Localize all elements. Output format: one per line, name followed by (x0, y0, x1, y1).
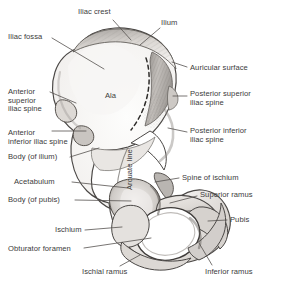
label-iliac-crest: Iliac crest (78, 8, 111, 17)
label-ischial-ramus: Ischial ramus (82, 268, 127, 277)
label-anterior-inferior-iliac-spine: Anterior inferior iliac spine (8, 129, 68, 146)
posterior-superior-iliac-spine-shape (168, 86, 179, 110)
label-superior-ramus: Superior ramus (200, 191, 253, 200)
label-ala: Ala (105, 92, 116, 101)
label-anterior-superior-iliac-spine: Anterior superior iliac spine (8, 88, 42, 114)
label-body-of-ilium: Body (of ilium) (8, 153, 57, 162)
label-body-of-pubis: Body (of pubis) (8, 196, 60, 205)
anatomy-figure-page: Iliac crest Ilium Iliac fossa Auricular … (0, 0, 284, 288)
label-posterior-inferior-iliac-spine: Posterior inferior iliac spine (190, 127, 247, 144)
label-ischium: Ischium (55, 226, 82, 235)
label-pubis: Pubis (230, 216, 249, 225)
label-posterior-superior-iliac-spine: Posterior superior iliac spine (190, 90, 251, 107)
label-arcuate-line: Arcuate line (126, 149, 135, 190)
label-auricular-surface: Auricular surface (190, 64, 248, 73)
leader-posterior-inferior (168, 128, 187, 132)
label-obturator-foramen: Obturator foramen (8, 245, 71, 254)
label-inferior-ramus: Inferior ramus (205, 268, 253, 277)
label-spine-of-ischium: Spine of ischium (182, 174, 239, 183)
label-acetabulum: Acetabulum (14, 178, 55, 187)
label-ilium: Ilium (161, 19, 177, 28)
label-iliac-fossa: Iliac fossa (8, 33, 42, 42)
